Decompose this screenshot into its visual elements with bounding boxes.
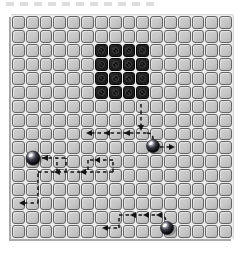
direction-arrow-icon xyxy=(138,125,144,131)
direction-arrow-icon xyxy=(104,130,110,136)
direction-arrow-icon xyxy=(102,225,108,231)
sphere-body xyxy=(147,140,160,153)
direction-arrow-icon xyxy=(80,169,86,175)
robot-upper-sphere-icon xyxy=(147,140,163,155)
direction-arrow-icon xyxy=(19,200,25,206)
figure-canvas xyxy=(0,0,240,253)
trail-path xyxy=(147,133,153,139)
robot-left-sphere-icon xyxy=(26,151,43,167)
trajectory-overlay xyxy=(0,0,240,253)
robot-lower-sphere-icon xyxy=(161,222,177,237)
direction-arrow-icon xyxy=(124,130,130,136)
direction-arrow-icon xyxy=(130,212,136,218)
direction-arrow-icon xyxy=(156,212,162,218)
direction-arrow-icon xyxy=(42,155,48,161)
sphere-body xyxy=(161,222,174,235)
direction-arrow-icon xyxy=(94,157,100,163)
direction-arrow-icon xyxy=(143,212,149,218)
direction-arrow-icon xyxy=(169,144,175,150)
direction-arrow-icon xyxy=(86,130,92,136)
sphere-body xyxy=(26,151,40,165)
